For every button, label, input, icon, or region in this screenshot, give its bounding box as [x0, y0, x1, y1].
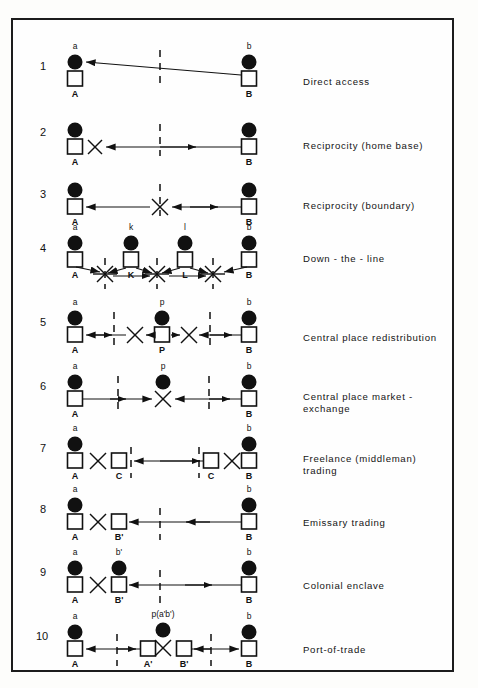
row-label-reciprocity-boundary: Reciprocity (boundary) — [303, 200, 415, 212]
row-1-graphic — [68, 50, 257, 86]
row-label-central-place-market-exchange: Central place market - exchange — [303, 391, 413, 414]
svg-text:A: A — [72, 345, 79, 355]
row-2-graphic — [68, 123, 257, 157]
svg-text:A: A — [72, 270, 79, 280]
svg-text:A: A — [72, 471, 79, 481]
svg-text:a: a — [73, 547, 78, 557]
svg-text:A: A — [72, 217, 79, 227]
svg-text:a: a — [73, 41, 78, 51]
row-6-graphic — [68, 375, 257, 411]
svg-text:B: B — [246, 409, 253, 419]
svg-text:L: L — [182, 270, 188, 280]
svg-text:a: a — [73, 297, 78, 307]
svg-text:a: a — [73, 611, 78, 621]
figure-root: ab aklb apb apb ab ab ab'b ab p(a'b') AB… — [0, 0, 478, 688]
diagram-canvas: ab aklb apb apb ab ab ab'b ab p(a'b') AB… — [0, 0, 478, 688]
svg-text:B: B — [246, 471, 253, 481]
svg-text:a: a — [73, 361, 78, 371]
svg-text:C: C — [208, 471, 215, 481]
row-9-graphic — [68, 561, 257, 604]
row-index-4: 4 — [40, 242, 46, 254]
row-index-1: 1 — [40, 60, 46, 72]
svg-text:B: B — [246, 270, 253, 280]
svg-text:B: B — [246, 157, 253, 167]
svg-text:B: B — [246, 217, 253, 227]
row-label-central-place-redistribution: Central place redistribution — [303, 332, 437, 344]
row-label-reciprocity-home-base: Reciprocity (home base) — [303, 140, 423, 152]
svg-text:A: A — [72, 595, 79, 605]
svg-text:A: A — [72, 659, 79, 669]
row-4-graphic — [68, 236, 257, 290]
svg-text:p: p — [161, 361, 166, 371]
row-index-6: 6 — [40, 380, 46, 392]
row-8-graphic — [68, 498, 257, 541]
svg-text:k: k — [129, 222, 134, 232]
svg-text:A: A — [72, 89, 79, 99]
row-10-graphic — [68, 623, 257, 667]
svg-text:A: A — [72, 409, 79, 419]
svg-text:p: p — [160, 297, 165, 307]
row-index-5: 5 — [40, 316, 46, 328]
row-label-port-of-trade: Port-of-trade — [303, 644, 366, 656]
svg-text:A: A — [72, 532, 79, 542]
row-7-graphic — [68, 437, 257, 479]
svg-text:B': B' — [115, 595, 124, 605]
svg-text:b: b — [247, 484, 252, 494]
svg-text:B: B — [246, 532, 253, 542]
row-label-emissary-trading: Emissary trading — [303, 517, 386, 529]
row-label-freelance-middleman-trading: Freelance (middleman) trading — [303, 453, 416, 476]
svg-text:B': B' — [115, 532, 124, 542]
svg-text:K: K — [128, 270, 135, 280]
svg-text:B: B — [246, 89, 253, 99]
row-index-8: 8 — [40, 503, 46, 515]
svg-text:B: B — [246, 595, 253, 605]
svg-text:b: b — [247, 41, 252, 51]
row-label-direct-access: Direct access — [303, 76, 370, 88]
svg-text:P: P — [159, 345, 165, 355]
svg-text:a: a — [73, 423, 78, 433]
row-3-graphic — [68, 183, 257, 217]
svg-text:b: b — [247, 547, 252, 557]
svg-text:a: a — [73, 484, 78, 494]
svg-text:B: B — [246, 345, 253, 355]
svg-text:B: B — [246, 659, 253, 669]
svg-text:l: l — [184, 222, 186, 232]
svg-text:b: b — [247, 297, 252, 307]
svg-text:b': b' — [116, 547, 123, 557]
svg-text:A': A' — [144, 659, 153, 669]
row-label-down-the-line: Down - the - line — [303, 253, 385, 265]
svg-text:b: b — [247, 361, 252, 371]
svg-text:A: A — [72, 157, 79, 167]
row-index-9: 9 — [40, 566, 46, 578]
row-label-colonial-enclave: Colonial enclave — [303, 580, 385, 592]
row-index-3: 3 — [40, 188, 46, 200]
row-index-10: 10 — [36, 630, 48, 642]
svg-text:b: b — [247, 611, 252, 621]
row-index-7: 7 — [40, 442, 46, 454]
row-5-graphic — [68, 311, 257, 346]
svg-text:B': B' — [180, 659, 189, 669]
svg-text:p(a'b'): p(a'b') — [151, 609, 174, 619]
svg-text:b: b — [247, 423, 252, 433]
svg-text:C: C — [116, 471, 123, 481]
row-index-2: 2 — [40, 126, 46, 138]
